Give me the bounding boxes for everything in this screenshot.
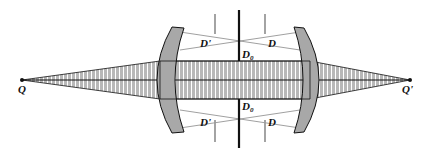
label-pupil-right-bottom: D bbox=[267, 116, 276, 128]
label-pupil-left-top: D' bbox=[199, 37, 211, 49]
object-point bbox=[20, 78, 24, 82]
image-point bbox=[408, 78, 412, 82]
label-object-point: Q bbox=[18, 83, 26, 95]
label-image-point: Q' bbox=[402, 83, 413, 95]
label-pupil-left-bottom: D' bbox=[199, 116, 211, 128]
label-pupil-right-top: D bbox=[267, 37, 276, 49]
optical-diagram: Q Q' D' D D0 D0 D' D bbox=[0, 0, 425, 153]
label-stop-top: D0 bbox=[241, 48, 254, 62]
label-stop-bottom: D0 bbox=[241, 100, 254, 114]
